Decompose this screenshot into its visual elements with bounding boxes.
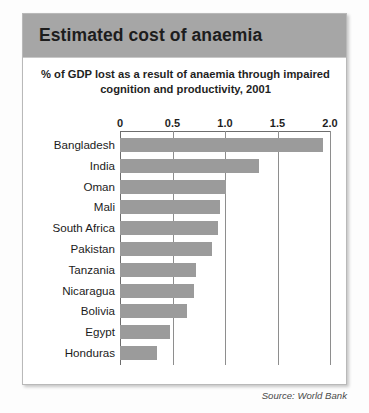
category-label: Egypt bbox=[85, 324, 115, 340]
bar bbox=[120, 138, 323, 152]
chart-panel: % of GDP lost as a result of anaemia thr… bbox=[23, 57, 346, 384]
bar bbox=[120, 325, 170, 339]
bar-row: Nicaragua bbox=[120, 282, 330, 303]
gridline bbox=[330, 131, 331, 365]
category-label: Mali bbox=[94, 199, 115, 215]
bar bbox=[120, 263, 196, 277]
x-tick-label: 1.5 bbox=[270, 117, 285, 129]
bar bbox=[120, 346, 157, 360]
bar-row: Mali bbox=[120, 198, 330, 219]
chart-card: Estimated cost of anaemia % of GDP lost … bbox=[22, 13, 347, 385]
bar-rows: BangladeshIndiaOmanMaliSouth AfricaPakis… bbox=[120, 136, 330, 365]
page-title: Estimated cost of anaemia bbox=[39, 25, 262, 46]
bar bbox=[120, 242, 212, 256]
x-tick-label: 0 bbox=[117, 117, 123, 129]
x-tick-label: 2.0 bbox=[322, 117, 337, 129]
bar bbox=[120, 221, 218, 235]
bar-row: Bolivia bbox=[120, 302, 330, 323]
category-label: Tanzania bbox=[69, 262, 115, 278]
plot-area: BangladeshIndiaOmanMaliSouth AfricaPakis… bbox=[120, 136, 330, 365]
bar-row: Egypt bbox=[120, 323, 330, 344]
chart-title-band: Estimated cost of anaemia bbox=[23, 14, 346, 57]
category-label: Bolivia bbox=[81, 303, 115, 319]
category-label: Pakistan bbox=[71, 241, 115, 257]
bar-row: Tanzania bbox=[120, 261, 330, 282]
x-tick-label: 1.0 bbox=[217, 117, 232, 129]
category-label: Nicaragua bbox=[62, 283, 115, 299]
bar-row: Bangladesh bbox=[120, 136, 330, 157]
chart-figure: Estimated cost of anaemia % of GDP lost … bbox=[0, 0, 369, 413]
bar bbox=[120, 180, 226, 194]
bar-row: Oman bbox=[120, 178, 330, 199]
bar-row: Honduras bbox=[120, 344, 330, 365]
chart-subtitle: % of GDP lost as a result of anaemia thr… bbox=[33, 67, 338, 96]
category-label: India bbox=[90, 158, 115, 174]
category-label: Bangladesh bbox=[54, 137, 115, 153]
source-note: Source: World Bank bbox=[262, 390, 347, 401]
bar bbox=[120, 304, 187, 318]
x-tick-label: 0.5 bbox=[165, 117, 180, 129]
bar-row: India bbox=[120, 157, 330, 178]
bar bbox=[120, 200, 220, 214]
category-label: Oman bbox=[83, 179, 115, 195]
bar-row: South Africa bbox=[120, 219, 330, 240]
bar-row: Pakistan bbox=[120, 240, 330, 261]
bar bbox=[120, 159, 259, 173]
category-label: Honduras bbox=[65, 345, 115, 361]
category-label: South Africa bbox=[52, 220, 115, 236]
bar bbox=[120, 284, 194, 298]
